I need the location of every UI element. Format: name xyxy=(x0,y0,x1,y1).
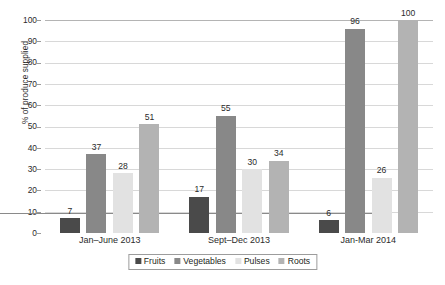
x-axis-category-label: Sept–Dec 2013 xyxy=(174,236,303,245)
bar-value-label: 55 xyxy=(208,104,244,113)
bar-value-label: 26 xyxy=(364,166,400,175)
bar-value-label: 96 xyxy=(337,17,373,26)
legend-swatch-icon xyxy=(279,258,285,264)
y-axis-tick-label: 80 xyxy=(0,58,37,66)
legend-swatch-icon xyxy=(135,258,141,264)
legend-label: Vegetables xyxy=(183,257,226,266)
y-axis-tick-label: 90 xyxy=(0,37,37,45)
y-axis-tick-mark xyxy=(36,127,41,128)
bar xyxy=(189,197,209,233)
y-axis-tick-label: 20 xyxy=(0,186,37,194)
legend-label: Fruits xyxy=(144,257,165,266)
y-axis-tick-label: 0 xyxy=(0,229,37,237)
legend-item[interactable]: Fruits xyxy=(135,257,165,266)
bar-value-label: 30 xyxy=(234,158,270,167)
y-axis-tick-mark xyxy=(36,190,41,191)
bar-value-label: 28 xyxy=(105,162,141,171)
bar xyxy=(86,154,106,233)
y-axis-tick-mark xyxy=(36,233,41,234)
bar-chart-figure: % of produce supplied 010203040506070809… xyxy=(0,0,445,285)
bars-layer: 73728511755303469626100 xyxy=(45,20,433,233)
x-axis-category-label: Jan-Mar 2014 xyxy=(304,236,433,245)
y-axis-tick-mark xyxy=(36,63,41,64)
legend-swatch-icon xyxy=(174,258,180,264)
bar xyxy=(60,218,80,233)
legend-item[interactable]: Vegetables xyxy=(174,257,226,266)
y-axis-tick-label: 60 xyxy=(0,101,37,109)
legend-item[interactable]: Roots xyxy=(279,257,310,266)
legend-swatch-icon xyxy=(235,258,241,264)
bar-value-label: 6 xyxy=(311,209,347,218)
y-axis-tick-mark xyxy=(36,20,41,21)
y-axis-tick-label: 10 xyxy=(0,208,37,216)
y-axis-tick-label: 70 xyxy=(0,80,37,88)
bar xyxy=(345,29,365,233)
x-axis-category-label: Jan–June 2013 xyxy=(45,236,174,245)
y-axis-tick-label: 30 xyxy=(0,165,37,173)
y-axis-tick-mark xyxy=(36,169,41,170)
bar-value-label: 37 xyxy=(78,143,114,152)
y-axis-tick-mark xyxy=(36,84,41,85)
y-axis-tick-label: 40 xyxy=(0,144,37,152)
bar xyxy=(319,220,339,233)
bar xyxy=(269,161,289,233)
y-axis-tick-label: 50 xyxy=(0,122,37,130)
legend-item[interactable]: Pulses xyxy=(235,257,270,266)
figure-caption xyxy=(0,279,445,285)
bar xyxy=(372,178,392,233)
bar-value-label: 51 xyxy=(131,113,167,122)
bar xyxy=(113,173,133,233)
bar xyxy=(398,20,418,233)
bar-value-label: 17 xyxy=(181,185,217,194)
bar-value-label: 34 xyxy=(261,149,297,158)
y-axis-tick-mark xyxy=(36,105,41,106)
bar xyxy=(242,169,262,233)
legend-label: Roots xyxy=(288,257,310,266)
bar xyxy=(139,124,159,233)
legend[interactable]: FruitsVegetablesPulsesRoots xyxy=(128,254,317,270)
legend-label: Pulses xyxy=(244,257,270,266)
bar-value-label: 7 xyxy=(52,207,88,216)
y-axis-tick-mark xyxy=(36,41,41,42)
bar xyxy=(216,116,236,233)
bar-value-label: 100 xyxy=(390,9,426,18)
y-axis-ticks: 0102030405060708090100 xyxy=(0,20,41,233)
x-axis-category-labels: Jan–June 2013Sept–Dec 2013Jan-Mar 2014 xyxy=(45,236,433,250)
y-axis-tick-mark xyxy=(36,148,41,149)
y-axis-tick-label: 100 xyxy=(0,16,37,24)
